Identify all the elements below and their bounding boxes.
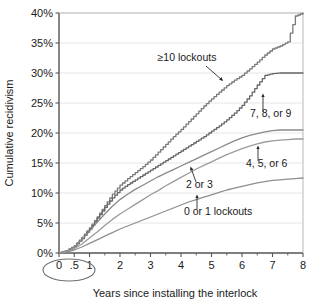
x-tick-label: 8 <box>300 259 306 271</box>
y-tick-label: 10% <box>31 187 53 199</box>
x-tick-label: 4 <box>178 259 184 271</box>
series-annotation-label: 7, 8, or 9 <box>250 107 292 119</box>
x-tick-label: 7 <box>269 259 275 271</box>
x-tick-label: .5 <box>70 259 79 271</box>
x-tick-label: 6 <box>239 259 245 271</box>
y-tick-label: 15% <box>31 157 53 169</box>
x-tick-label: 3 <box>147 259 153 271</box>
y-tick-label: 30% <box>31 67 53 79</box>
x-tick-label: 2 <box>117 259 123 271</box>
series-annotation-label: 0 or 1 lockouts <box>184 205 252 217</box>
y-tick-label: 20% <box>31 127 53 139</box>
y-tick-label: 5% <box>37 217 53 229</box>
y-axis-title: Cumulative recidivism <box>3 80 15 187</box>
x-tick-label: 5 <box>208 259 214 271</box>
y-tick-label: 25% <box>31 97 53 109</box>
series-annotation-label: 4, 5, or 6 <box>246 157 288 169</box>
chart-figure: 0.512345678 0%5%10%15%20%25%30%35%40% ≥1… <box>0 0 313 307</box>
series-annotation-label: ≥10 lockouts <box>158 51 217 63</box>
cumulative-recidivism-chart: 0.512345678 0%5%10%15%20%25%30%35%40% ≥1… <box>0 0 313 307</box>
y-tick-label: 40% <box>31 7 53 19</box>
y-tick-label: 35% <box>31 37 53 49</box>
series-annotation-label: 2 or 3 <box>186 178 213 190</box>
x-axis-title: Years since installing the interlock <box>93 287 258 299</box>
y-tick-label: 0% <box>37 247 53 259</box>
